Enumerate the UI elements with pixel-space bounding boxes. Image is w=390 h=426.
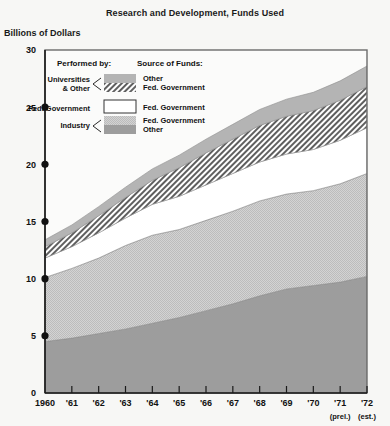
x-tick-label: '61 — [66, 398, 78, 408]
x-tick-label: '66 — [200, 398, 212, 408]
y-tick-label: 20 — [26, 160, 36, 170]
legend-source-label: Other — [143, 74, 163, 83]
legend-performed-by-header: Performed by: — [57, 59, 111, 68]
legend-source-of-funds-header: Source of Funds: — [137, 59, 203, 68]
legend-swatch-top — [104, 116, 136, 125]
y-axis-marker-dot — [41, 218, 48, 225]
y-axis-marker-dot — [41, 275, 48, 282]
x-tick-label: '65 — [173, 398, 185, 408]
x-tick-label: 1960 — [35, 398, 55, 408]
x-tick-label: '69 — [280, 398, 292, 408]
legend-swatch-bottom — [104, 125, 136, 134]
legend-source-label: Fed. Government — [143, 116, 205, 125]
x-tick-note: (prel.) — [330, 412, 351, 421]
legend-performed-by-label: Universities — [47, 75, 90, 84]
x-tick-label: '64 — [146, 398, 158, 408]
y-tick-label: 10 — [26, 274, 36, 284]
x-tick-label: '62 — [93, 398, 105, 408]
x-tick-label: '67 — [227, 398, 239, 408]
legend-performed-by-label: Industry — [60, 121, 90, 130]
y-tick-label: 30 — [26, 45, 36, 55]
x-tick-label: '71 — [334, 398, 346, 408]
x-tick-label: '68 — [254, 398, 266, 408]
legend-swatch-white — [104, 100, 136, 113]
legend-swatch-bottom — [104, 83, 136, 92]
y-tick-label: 15 — [26, 217, 36, 227]
x-tick-label: '72 — [361, 398, 373, 408]
x-tick-note: (est.) — [358, 412, 376, 421]
legend-performed-by-label: & Other — [62, 84, 90, 93]
legend-source-label: Fed. Government — [143, 83, 205, 92]
legend-swatch-top — [104, 74, 136, 83]
legend-performed-by-label: Fed. Government — [28, 104, 90, 113]
legend-source-label: Other — [143, 125, 163, 134]
x-tick-label: '70 — [307, 398, 319, 408]
y-tick-label: 5 — [31, 331, 36, 341]
y-axis-marker-dot — [41, 161, 48, 168]
stacked-area-chart: 051015202530 1960'61'62'63'64'65'66'67'6… — [0, 0, 390, 426]
x-tick-label: '63 — [119, 398, 131, 408]
y-tick-label: 0 — [31, 388, 36, 398]
legend-source-label: Fed. Government — [143, 103, 205, 112]
chart-root: Research and Development, Funds Used Bil… — [0, 0, 390, 426]
y-axis-marker-dot — [41, 332, 48, 339]
